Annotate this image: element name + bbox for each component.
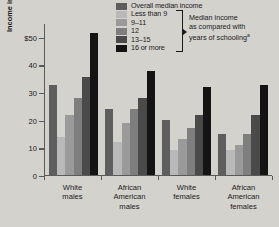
bar	[178, 139, 186, 174]
y-axis-tick-mark	[39, 65, 44, 66]
bar	[57, 137, 65, 175]
bar-groups	[45, 25, 271, 175]
x-axis-group-label-line: males	[101, 202, 158, 211]
y-axis-tick-label: 0	[33, 172, 37, 181]
bar	[90, 33, 98, 175]
y-axis-tick-label: 40	[29, 61, 37, 70]
x-axis-group-label-line: females	[158, 192, 215, 201]
bar	[138, 98, 146, 174]
bar	[147, 71, 155, 175]
bar	[74, 98, 82, 174]
bar	[251, 115, 259, 175]
y-axis-tick-label: $50	[24, 33, 37, 42]
x-axis-tick-mark	[44, 176, 45, 180]
legend-annotation-line-1: Median income	[189, 13, 250, 22]
bar	[105, 109, 113, 174]
bar	[260, 85, 268, 175]
y-axis-tick-mark	[39, 38, 44, 39]
y-axis-title-container: Income in thousands of dollars	[7, 22, 17, 152]
bar	[122, 123, 130, 175]
x-axis-tick-mark	[158, 176, 159, 180]
bar	[235, 145, 243, 175]
y-axis-tick-mark	[39, 148, 44, 149]
bar	[187, 128, 195, 174]
x-axis-group-label-line: American	[215, 192, 272, 201]
x-axis-group-label-line: African	[215, 183, 272, 192]
x-axis-tick-mark	[101, 176, 102, 180]
x-axis-group-label: AfricanAmericanmales	[101, 183, 158, 211]
bar	[170, 150, 178, 175]
x-axis-group-label-line: White	[44, 183, 101, 192]
bar	[162, 120, 170, 175]
bar-group	[215, 25, 272, 175]
bar	[243, 134, 251, 175]
x-axis-group-label: AfricanAmericanfemales	[215, 183, 272, 211]
bar	[218, 134, 226, 175]
y-axis-tick-mark	[39, 121, 44, 122]
x-axis-group-label: Whitefemales	[158, 183, 215, 211]
bar-group	[158, 25, 215, 175]
y-axis-tick-label: 30	[29, 89, 37, 98]
y-axis-title: Income in thousands of dollars	[5, 0, 14, 32]
bar	[113, 142, 121, 175]
x-axis-group-labels: WhitemalesAfricanAmericanmalesWhitefemal…	[44, 183, 272, 211]
bar	[203, 87, 211, 174]
legend-swatch-less-than-9	[116, 11, 127, 18]
y-axis-tick-label: 10	[29, 144, 37, 153]
x-axis-group-label-line: females	[215, 202, 272, 211]
bar	[130, 109, 138, 174]
bar-group	[102, 25, 159, 175]
x-axis-group-label-line: males	[44, 192, 101, 201]
legend-swatch-overall-median-income	[116, 3, 127, 10]
x-axis-tick-mark	[272, 176, 273, 180]
x-axis-group-label-line: African	[101, 183, 158, 192]
y-axis-tick-label: 20	[29, 116, 37, 125]
bar	[226, 150, 234, 175]
bar-group	[45, 25, 102, 175]
bar	[65, 115, 73, 175]
x-axis-group-label-line: American	[101, 192, 158, 201]
x-axis-tick-mark	[215, 176, 216, 180]
y-axis-tick-mark	[39, 93, 44, 94]
bar	[82, 77, 90, 175]
x-axis-group-label-line: White	[158, 183, 215, 192]
bar	[49, 85, 57, 175]
x-axis-group-ticks	[44, 176, 272, 180]
x-axis-group-label: Whitemales	[44, 183, 101, 211]
bar-chart: Overall median income Less than 9 9–11 1…	[0, 0, 279, 227]
plot-area: $50403020100	[44, 24, 272, 176]
bar	[195, 115, 203, 175]
